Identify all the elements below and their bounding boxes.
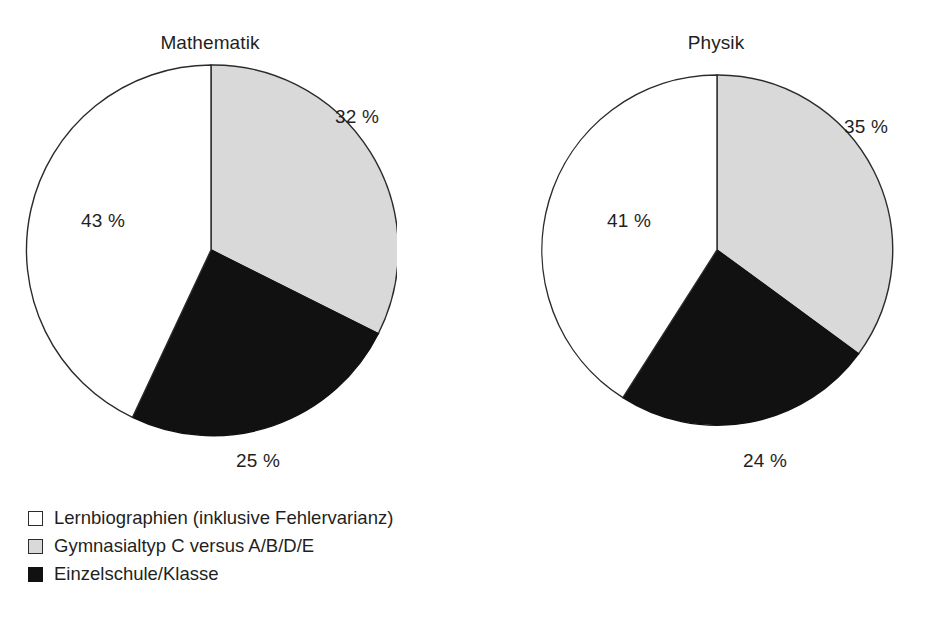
legend-label-einzelschule: Einzelschule/Klasse <box>54 563 219 585</box>
pie-panel-mathematik: Mathematik 32 % 43 % 25 % <box>25 14 395 444</box>
legend-item-lernbiographien: Lernbiographien (inklusive Fehlervarianz… <box>28 505 393 531</box>
pct-label-gray-physik: 35 % <box>844 116 888 138</box>
legend-swatch-white-icon <box>28 511 43 526</box>
pct-label-white-mathematik: 43 % <box>81 210 125 232</box>
pie-title-mathematik: Mathematik <box>25 32 395 54</box>
pct-label-black-physik: 24 % <box>743 450 787 472</box>
pct-label-white-physik: 41 % <box>607 210 651 232</box>
chart-legend: Lernbiographien (inklusive Fehlervarianz… <box>28 505 393 589</box>
pie-panel-physik: Physik 35 % 41 % 24 % <box>540 14 892 444</box>
pie-chart-figure: Mathematik 32 % 43 % 25 % Physik 35 % 41 <box>0 0 941 622</box>
pct-label-gray-mathematik: 32 % <box>335 106 379 128</box>
legend-swatch-black-icon <box>28 567 43 582</box>
pie-title-physik: Physik <box>540 32 892 54</box>
legend-item-einzelschule: Einzelschule/Klasse <box>28 561 393 587</box>
pie-svg-physik <box>540 72 894 430</box>
legend-swatch-gray-icon <box>28 539 43 554</box>
pct-label-black-mathematik: 25 % <box>236 450 280 472</box>
legend-label-lernbiographien: Lernbiographien (inklusive Fehlervarianz… <box>54 507 393 529</box>
legend-item-gymnasialtyp: Gymnasialtyp C versus A/B/D/E <box>28 533 393 559</box>
legend-label-gymnasialtyp: Gymnasialtyp C versus A/B/D/E <box>54 535 314 557</box>
